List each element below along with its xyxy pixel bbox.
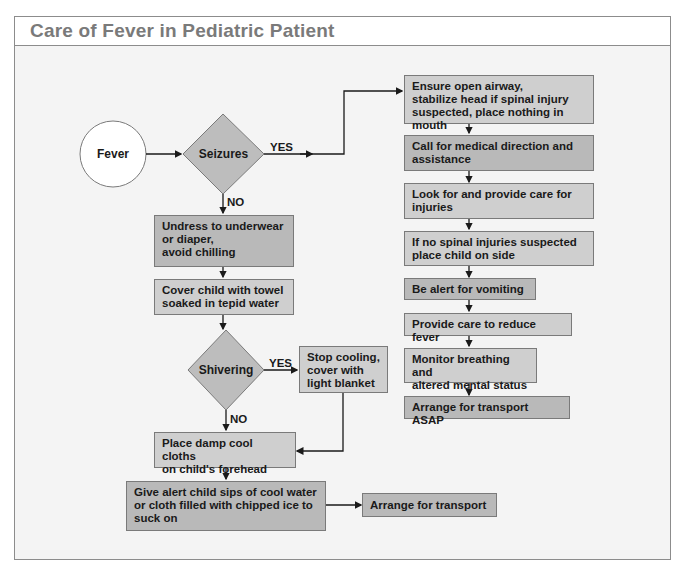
step-line: soaked in tepid water (162, 297, 286, 310)
step-line: suck on (134, 512, 318, 525)
step-stop-cooling: Stop cooling, cover with light blanket (299, 346, 388, 393)
step-line: Stop cooling, (307, 351, 380, 364)
shivering-node-label: Shivering (188, 363, 264, 377)
step-line: Cover child with towel (162, 284, 286, 297)
step-reduce-fever: Provide care to reduce fever (404, 313, 572, 336)
step-injuries: Look for and provide care for injuries (404, 183, 594, 219)
step-line: avoid chilling (162, 246, 286, 259)
step-transport-asap: Arrange for transport ASAP (404, 396, 570, 419)
step-line: Ensure open airway, (412, 80, 586, 93)
seizures-node-label: Seizures (183, 147, 264, 161)
step-line: Arrange for transport (370, 499, 489, 512)
step-line: Be alert for vomiting (412, 283, 528, 296)
step-call: Call for medical direction and assistanc… (404, 135, 594, 171)
step-line: Place damp cool cloths (162, 437, 288, 463)
step-line: cover with (307, 364, 380, 377)
step-line: Provide care to reduce fever (412, 318, 564, 344)
shivering-yes-label: YES (269, 357, 292, 369)
step-line: stabilize head if spinal injury (412, 93, 586, 106)
step-line: on child's forehead (162, 463, 288, 476)
step-line: place child on side (412, 249, 586, 262)
step-line: assistance (412, 153, 586, 166)
step-transport: Arrange for transport (362, 493, 497, 517)
step-cover-towel: Cover child with towel soaked in tepid w… (154, 279, 294, 315)
step-line: or cloth filled with chipped ice to (134, 499, 318, 512)
step-sips: Give alert child sips of cool water or c… (126, 481, 326, 531)
seizures-no-label: NO (227, 196, 244, 208)
step-monitor: Monitor breathing and altered mental sta… (404, 348, 537, 383)
step-line: or diaper, (162, 233, 286, 246)
step-line: suspected, place nothing in mouth (412, 106, 586, 132)
step-line: Undress to underwear (162, 220, 286, 233)
step-airway: Ensure open airway, stabilize head if sp… (404, 75, 594, 124)
step-line: Look for and provide care for (412, 188, 586, 201)
seizures-yes-label: YES (270, 141, 293, 153)
step-side: If no spinal injuries suspected place ch… (404, 231, 594, 266)
step-line: Call for medical direction and (412, 140, 586, 153)
shivering-no-label: NO (230, 413, 247, 425)
step-damp-cloths: Place damp cool cloths on child's forehe… (154, 432, 296, 468)
step-line: injuries (412, 201, 586, 214)
step-undress: Undress to underwear or diaper, avoid ch… (154, 215, 294, 267)
step-line: altered mental status (412, 379, 529, 392)
step-line: light blanket (307, 377, 380, 390)
fever-node-label: Fever (80, 147, 146, 161)
step-line: Monitor breathing and (412, 353, 529, 379)
step-line: Give alert child sips of cool water (134, 486, 318, 499)
step-line: Arrange for transport ASAP (412, 401, 562, 427)
step-vomiting: Be alert for vomiting (404, 278, 536, 300)
step-line: If no spinal injuries suspected (412, 236, 586, 249)
